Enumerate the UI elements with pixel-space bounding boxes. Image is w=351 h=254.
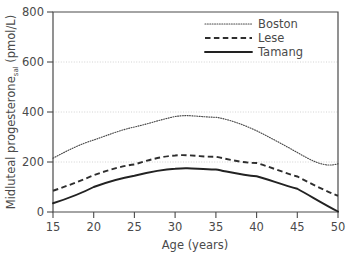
svg-text:Midluteal progesteronesal (pmo: Midluteal progesteronesal (pmol/L) bbox=[4, 15, 20, 210]
y-axis-title-subscript: sal bbox=[12, 66, 20, 76]
x-tick-label-35: 35 bbox=[209, 220, 224, 234]
legend-label-lese: Lese bbox=[258, 31, 284, 45]
y-tick-label-400: 400 bbox=[22, 105, 44, 119]
x-axis-title: Age (years) bbox=[162, 238, 229, 252]
legend-label-tamang: Tamang bbox=[257, 45, 303, 59]
chart-legend: Boston Lese Tamang bbox=[205, 17, 303, 59]
x-tickmarks bbox=[53, 212, 338, 218]
chart-figure: 800 600 400 200 0 15 20 25 30 35 40 45 5 bbox=[0, 0, 351, 254]
x-tick-label-45: 45 bbox=[290, 220, 305, 234]
y-tickmarks bbox=[47, 12, 53, 212]
y-axis-title-unit: (pmol/L) bbox=[4, 15, 18, 67]
gridlines bbox=[53, 62, 338, 162]
x-tick-label-40: 40 bbox=[249, 220, 264, 234]
data-series bbox=[53, 116, 338, 212]
x-tick-label-50: 50 bbox=[331, 220, 346, 234]
x-tick-label-25: 25 bbox=[127, 220, 142, 234]
x-tick-label-20: 20 bbox=[86, 220, 101, 234]
y-tick-label-600: 600 bbox=[22, 55, 44, 69]
series-line-boston bbox=[53, 116, 338, 165]
x-tick-label-30: 30 bbox=[168, 220, 183, 234]
x-tick-label-15: 15 bbox=[46, 220, 61, 234]
y-axis-title: Midluteal progesteronesal (pmol/L) bbox=[4, 15, 20, 210]
y-tick-label-0: 0 bbox=[37, 205, 44, 219]
legend-label-boston: Boston bbox=[258, 17, 298, 31]
x-tick-labels: 15 20 25 30 35 40 45 50 bbox=[46, 220, 346, 234]
y-tick-label-200: 200 bbox=[22, 155, 44, 169]
line-chart: 800 600 400 200 0 15 20 25 30 35 40 45 5 bbox=[0, 0, 351, 254]
y-tick-label-800: 800 bbox=[22, 5, 44, 19]
y-tick-labels: 800 600 400 200 0 bbox=[22, 5, 44, 219]
series-line-lese bbox=[53, 155, 338, 196]
y-axis-title-main: Midluteal progesterone bbox=[4, 76, 18, 209]
